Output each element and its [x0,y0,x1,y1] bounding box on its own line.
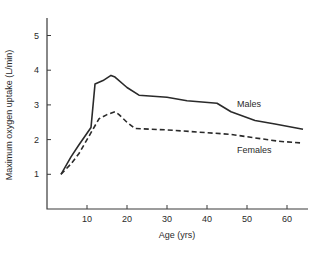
x-tick-label: 10 [82,214,92,224]
y-tick-label: 2 [34,135,39,145]
oxygen-uptake-chart: 10203040506012345 MalesFemales Age (yrs)… [0,0,318,258]
axis-lines [47,18,308,209]
y-tick-label: 5 [34,31,39,41]
x-tick-label: 20 [122,214,132,224]
x-tick-label: 50 [242,214,252,224]
axes [47,18,308,209]
series-labels: MalesFemales [237,99,272,155]
x-tick-label: 30 [162,214,172,224]
x-tick-label: 40 [202,214,212,224]
y-tick-label: 1 [34,169,39,179]
y-axis-label: Maximum oxygen uptake (L/min) [4,50,14,181]
x-tick-label: 60 [282,214,292,224]
series-label-females: Females [237,145,272,155]
x-axis-label: Age (yrs) [159,230,196,240]
y-tick-label: 4 [34,65,39,75]
ticks: 10203040506012345 [34,31,292,225]
series-label-males: Males [237,99,262,109]
series-lines [61,75,303,174]
series-line-males [61,75,303,174]
series-line-females [61,112,303,175]
y-tick-label: 3 [34,100,39,110]
